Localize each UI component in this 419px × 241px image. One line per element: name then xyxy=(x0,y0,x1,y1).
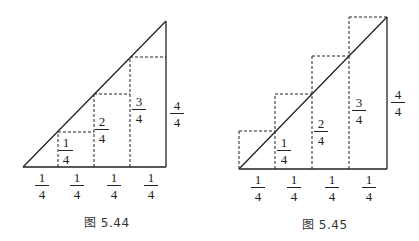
base-label-3: 14 xyxy=(325,173,339,203)
base-label-2: 14 xyxy=(287,173,301,203)
base-label-4: 14 xyxy=(144,171,158,201)
step-label-3: 34 xyxy=(132,95,146,125)
base-label-1: 14 xyxy=(251,173,265,203)
step-label-1: 14 xyxy=(59,136,73,166)
base-label-2: 14 xyxy=(70,171,84,201)
height-label: 44 xyxy=(391,88,405,118)
step-label-3: 34 xyxy=(352,96,366,126)
base-label-4: 14 xyxy=(362,173,376,203)
figure-caption-5-44: 图 5.44 xyxy=(84,213,130,230)
inscribed-rectangles xyxy=(58,57,166,167)
height-label: 44 xyxy=(170,99,184,129)
step-label-2: 24 xyxy=(95,115,109,145)
step-label-1: 14 xyxy=(277,136,291,166)
base-label-1: 14 xyxy=(35,171,49,201)
step-label-2: 24 xyxy=(314,117,328,147)
base-label-3: 14 xyxy=(107,171,121,201)
figure-caption-5-45: 图 5.45 xyxy=(302,215,348,232)
hypotenuse-line-2 xyxy=(239,17,387,169)
